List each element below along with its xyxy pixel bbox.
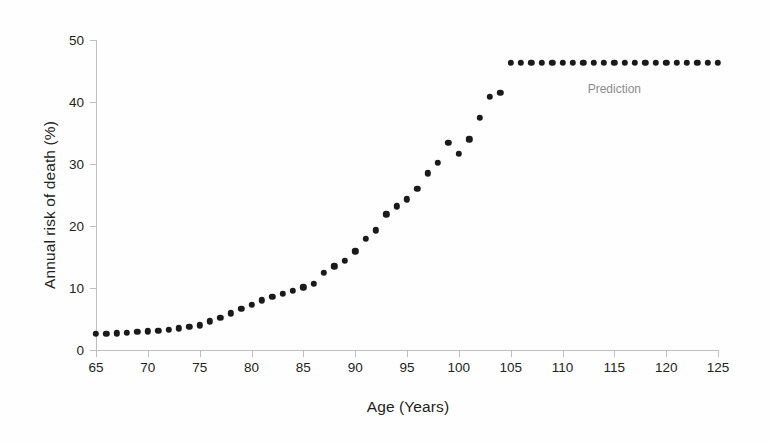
data-point [155, 328, 161, 334]
chart-container: Annual risk of death (%) Age (Years) 010… [0, 0, 770, 443]
data-point [497, 89, 503, 95]
x-tick-mark [563, 351, 564, 357]
x-tick-mark [459, 351, 460, 357]
data-point [165, 326, 171, 332]
data-point [507, 60, 513, 66]
data-point [207, 318, 213, 324]
data-point [259, 297, 265, 303]
x-tick-label: 65 [76, 360, 116, 375]
data-point [331, 263, 337, 269]
data-point [393, 203, 399, 209]
data-point [642, 60, 648, 66]
data-point [414, 186, 420, 192]
x-tick-label: 115 [594, 360, 634, 375]
x-axis-title: Age (Years) [96, 398, 720, 416]
data-point [425, 170, 431, 176]
data-point [570, 60, 576, 66]
data-point [342, 258, 348, 264]
x-tick-label: 90 [335, 360, 375, 375]
data-point [632, 60, 638, 66]
y-tick-label: 10 [44, 281, 84, 296]
x-tick-mark [511, 351, 512, 357]
data-point [704, 60, 710, 66]
data-point [694, 60, 700, 66]
data-point [383, 211, 389, 217]
data-point [279, 290, 285, 296]
x-tick-label: 100 [439, 360, 479, 375]
data-point [145, 328, 151, 334]
x-tick-mark [718, 351, 719, 357]
y-tick-label: 20 [44, 219, 84, 234]
x-tick-mark [200, 351, 201, 357]
data-point [238, 306, 244, 312]
data-point [196, 322, 202, 328]
data-point [559, 60, 565, 66]
x-tick-mark [614, 351, 615, 357]
data-point [528, 60, 534, 66]
y-tick-label: 0 [44, 343, 84, 358]
data-point [580, 60, 586, 66]
data-point [290, 288, 296, 294]
data-point [310, 280, 316, 286]
data-point [549, 60, 555, 66]
x-tick-mark [148, 351, 149, 357]
data-point [404, 196, 410, 202]
x-tick-label: 85 [283, 360, 323, 375]
x-tick-label: 70 [128, 360, 168, 375]
x-tick-mark [666, 351, 667, 357]
y-tick-label: 50 [44, 33, 84, 48]
prediction-annotation-label: Prediction [588, 82, 641, 96]
data-point [466, 136, 472, 142]
data-point [590, 60, 596, 66]
x-tick-mark [407, 351, 408, 357]
data-point [269, 293, 275, 299]
data-point [362, 236, 368, 242]
y-tick-label: 40 [44, 95, 84, 110]
data-point [715, 60, 721, 66]
x-tick-label: 80 [232, 360, 272, 375]
data-point [248, 302, 254, 308]
data-point [124, 329, 130, 335]
data-point [321, 269, 327, 275]
data-point [93, 331, 99, 337]
data-point [663, 60, 669, 66]
x-tick-label: 95 [387, 360, 427, 375]
x-tick-mark [303, 351, 304, 357]
x-tick-label: 105 [491, 360, 531, 375]
data-point [621, 60, 627, 66]
data-point [611, 60, 617, 66]
data-point [653, 60, 659, 66]
x-tick-mark [96, 351, 97, 357]
y-axis-title: Annual risk of death (%) [41, 45, 59, 365]
data-point [539, 60, 545, 66]
data-point [176, 325, 182, 331]
data-point [352, 248, 358, 254]
data-point [456, 151, 462, 157]
data-point [445, 140, 451, 146]
data-point [476, 114, 482, 120]
data-point [673, 60, 679, 66]
data-point [300, 284, 306, 290]
data-point [487, 94, 493, 100]
data-point [518, 60, 524, 66]
data-point [601, 60, 607, 66]
x-tick-label: 75 [180, 360, 220, 375]
x-tick-label: 125 [698, 360, 738, 375]
data-point [228, 310, 234, 316]
x-tick-mark [355, 351, 356, 357]
data-point [103, 331, 109, 337]
data-point [186, 324, 192, 330]
y-tick-label: 30 [44, 157, 84, 172]
data-point [684, 60, 690, 66]
x-tick-label: 110 [543, 360, 583, 375]
data-point [217, 315, 223, 321]
x-tick-label: 120 [646, 360, 686, 375]
data-point [435, 160, 441, 166]
data-point [114, 330, 120, 336]
data-point [373, 227, 379, 233]
x-tick-mark [252, 351, 253, 357]
data-point [134, 329, 140, 335]
